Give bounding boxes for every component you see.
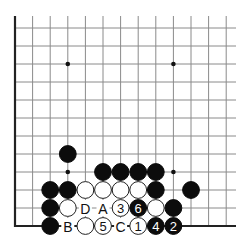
black-stone-icon xyxy=(165,200,182,217)
move-number: 4 xyxy=(152,219,159,234)
black-stone xyxy=(130,164,147,181)
white-stone-icon xyxy=(59,200,76,217)
move-number: 6 xyxy=(135,201,142,216)
black-stone-icon xyxy=(183,182,200,199)
point-label-text: C xyxy=(116,219,126,235)
star-point-icon xyxy=(171,170,176,175)
black-stone-icon xyxy=(42,218,59,235)
star-point-icon xyxy=(66,62,71,67)
black-stone: 6 xyxy=(130,200,147,217)
black-stone-icon xyxy=(147,164,164,181)
black-stone-icon xyxy=(112,164,129,181)
point-label-text: A xyxy=(98,201,108,217)
move-number: 3 xyxy=(117,201,124,216)
black-stone xyxy=(95,164,112,181)
black-stone: 4 xyxy=(147,218,164,235)
white-stone-icon xyxy=(77,218,94,235)
black-stone-icon xyxy=(59,146,76,163)
white-stone: 5 xyxy=(95,218,112,235)
black-stone xyxy=(147,164,164,181)
white-stone xyxy=(112,182,129,199)
point-label-text: B xyxy=(63,219,72,235)
black-stone xyxy=(42,200,59,217)
white-stone-icon xyxy=(130,182,147,199)
point-label-text: D xyxy=(80,201,90,217)
black-stone-icon xyxy=(42,200,59,217)
white-stone xyxy=(95,182,112,199)
white-stone xyxy=(77,182,94,199)
black-stone xyxy=(112,164,129,181)
move-number: 1 xyxy=(135,219,142,234)
point-label: B xyxy=(61,218,74,235)
white-stone xyxy=(59,200,76,217)
white-stone-icon xyxy=(95,182,112,199)
point-label: D xyxy=(79,200,92,217)
black-stone xyxy=(59,182,76,199)
white-stone: 1 xyxy=(130,218,147,235)
point-label: A xyxy=(97,200,110,217)
move-number: 2 xyxy=(170,219,177,234)
white-stone-icon xyxy=(112,182,129,199)
black-stone-icon xyxy=(59,182,76,199)
black-stone xyxy=(165,200,182,217)
black-stone: 2 xyxy=(165,218,182,235)
white-stone xyxy=(77,218,94,235)
black-stone-icon xyxy=(95,164,112,181)
white-stone-icon xyxy=(147,200,164,217)
black-stone xyxy=(147,182,164,199)
black-stone xyxy=(183,182,200,199)
white-stone xyxy=(130,182,147,199)
white-stone-icon xyxy=(77,182,94,199)
white-stone xyxy=(147,200,164,217)
black-stone-icon xyxy=(42,182,59,199)
black-stone-icon xyxy=(147,182,164,199)
white-stone: 3 xyxy=(112,200,129,217)
star-point-icon xyxy=(171,62,176,67)
black-stone xyxy=(42,182,59,199)
black-stone xyxy=(42,218,59,235)
star-point-icon xyxy=(66,170,71,175)
go-board-diagram: DABC 365142 xyxy=(0,0,251,252)
point-label: C xyxy=(114,218,127,235)
black-stone xyxy=(59,146,76,163)
black-stone-icon xyxy=(130,164,147,181)
move-number: 5 xyxy=(99,219,106,234)
